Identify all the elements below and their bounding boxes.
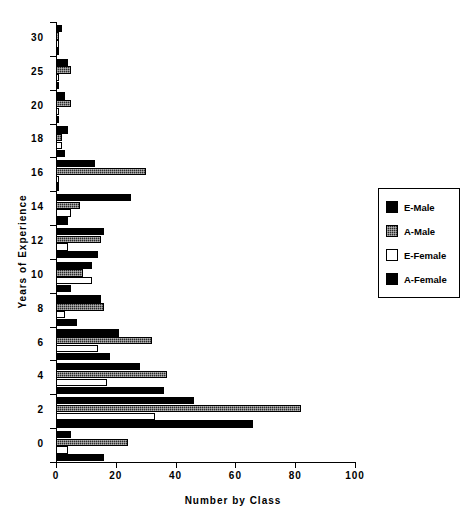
chart-figure: 020406080100 024681012141618202530 Numbe… [0, 0, 466, 525]
bar-a-female-8 [56, 319, 77, 326]
bar-a-male-2 [56, 405, 301, 412]
y-tick [50, 259, 57, 260]
y-tick [50, 462, 57, 463]
legend-label-e-male: E-Male [404, 202, 435, 213]
bar-a-male-25 [56, 66, 71, 73]
bar-a-female-10 [56, 285, 71, 292]
legend-swatch-e-female-icon [386, 249, 398, 261]
bar-e-female-2 [56, 413, 155, 420]
bar-e-male-14 [56, 194, 131, 201]
bar-a-female-12 [56, 251, 98, 258]
bar-e-female-0 [56, 446, 68, 453]
bar-e-female-18 [56, 142, 62, 149]
y-tick [50, 293, 57, 294]
bar-a-male-30 [56, 32, 59, 39]
x-tick-label: 20 [96, 470, 136, 481]
bar-a-male-0 [56, 439, 128, 446]
bar-a-female-30 [56, 48, 59, 55]
bar-e-male-6 [56, 329, 119, 336]
x-axis-line [56, 462, 356, 463]
legend-item-a-female: A-Female [386, 269, 453, 289]
bar-a-male-16 [56, 168, 146, 175]
bar-a-male-20 [56, 100, 71, 107]
bar-e-female-8 [56, 311, 65, 318]
y-tick [50, 225, 57, 226]
y-tick [50, 191, 57, 192]
bar-e-female-12 [56, 243, 68, 250]
y-tick [50, 56, 57, 57]
bar-a-female-25 [56, 82, 59, 89]
legend-swatch-a-female-icon [386, 273, 398, 285]
bar-a-female-0 [56, 454, 104, 461]
bar-e-male-10 [56, 262, 92, 269]
y-tick-label: 25 [0, 66, 44, 77]
bar-e-male-0 [56, 431, 71, 438]
bar-a-male-12 [56, 236, 101, 243]
bar-e-male-4 [56, 363, 140, 370]
bar-a-male-18 [56, 134, 62, 141]
x-tick [295, 462, 296, 468]
bar-a-male-8 [56, 303, 104, 310]
y-tick [50, 428, 57, 429]
legend-label-a-male: A-Male [404, 226, 435, 237]
x-tick-label: 40 [156, 470, 196, 481]
legend-swatch-e-male-icon [386, 201, 398, 213]
y-tick [50, 394, 57, 395]
x-tick [355, 462, 356, 468]
bar-e-female-6 [56, 345, 98, 352]
plot-area [56, 22, 355, 462]
bar-a-female-18 [56, 150, 65, 157]
y-tick-label: 18 [0, 133, 44, 144]
bar-a-female-14 [56, 217, 68, 224]
bar-e-male-8 [56, 295, 101, 302]
bar-e-female-30 [56, 40, 59, 47]
y-tick-label: 30 [0, 32, 44, 43]
x-axis-label: Number by Class [0, 495, 466, 506]
y-tick [50, 157, 57, 158]
bar-a-female-2 [56, 420, 253, 427]
bar-e-female-14 [56, 209, 71, 216]
y-tick [50, 22, 57, 23]
x-tick [235, 462, 236, 468]
bar-e-male-20 [56, 92, 65, 99]
legend-item-e-male: E-Male [386, 197, 453, 217]
x-tick-label: 0 [36, 470, 76, 481]
bar-e-male-30 [56, 25, 62, 32]
y-tick-label: 2 [0, 404, 44, 415]
x-tick-label: 100 [335, 470, 375, 481]
legend-item-a-male: A-Male [386, 221, 453, 241]
bar-a-male-6 [56, 337, 152, 344]
y-tick [50, 327, 57, 328]
bar-e-female-20 [56, 108, 59, 115]
bar-a-male-4 [56, 371, 167, 378]
y-tick-label: 4 [0, 370, 44, 381]
x-tick-label: 80 [275, 470, 315, 481]
bar-a-female-4 [56, 387, 164, 394]
y-tick-label: 20 [0, 100, 44, 111]
legend-label-a-female: A-Female [404, 274, 447, 285]
y-tick [50, 90, 57, 91]
bar-e-female-10 [56, 277, 92, 284]
x-tick [176, 462, 177, 468]
bar-e-male-12 [56, 228, 104, 235]
bar-e-female-4 [56, 379, 107, 386]
x-tick-label: 60 [215, 470, 255, 481]
bar-e-female-16 [56, 176, 59, 183]
bar-a-female-20 [56, 116, 59, 123]
bar-a-female-16 [56, 183, 59, 190]
x-tick [116, 462, 117, 468]
bar-e-female-25 [56, 74, 59, 81]
bar-a-male-14 [56, 202, 80, 209]
chart-legend: E-Male A-Male E-Female A-Female [378, 188, 460, 298]
y-tick-label: 0 [0, 438, 44, 449]
legend-item-e-female: E-Female [386, 245, 453, 265]
legend-swatch-a-male-icon [386, 225, 398, 237]
bar-e-male-25 [56, 59, 68, 66]
bar-e-male-18 [56, 126, 68, 133]
bar-e-male-16 [56, 160, 95, 167]
y-tick [50, 360, 57, 361]
legend-label-e-female: E-Female [404, 250, 446, 261]
bar-a-female-6 [56, 353, 110, 360]
y-tick [50, 124, 57, 125]
bar-e-male-2 [56, 397, 194, 404]
